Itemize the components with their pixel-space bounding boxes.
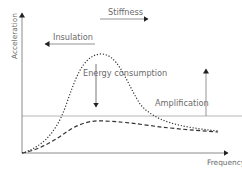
dashed-curve (22, 121, 218, 153)
vibration-isolation-diagram: Stiffness Insulation Energy consumption … (0, 0, 242, 177)
diagram-svg: Stiffness Insulation Energy consumption … (0, 0, 242, 177)
amplification-label: Amplification (155, 98, 209, 108)
insulation-label: Insulation (53, 32, 93, 42)
y-axis-label: Acceleration (10, 13, 19, 59)
x-axis-label: Frequency (207, 158, 242, 167)
energy-label: Energy consumption (83, 68, 167, 78)
stiffness-label: Stiffness (108, 7, 143, 17)
